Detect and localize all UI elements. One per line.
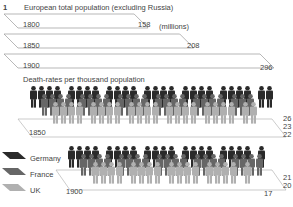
label-1850: 1850 xyxy=(23,41,40,50)
population-title: European total population (excluding Rus… xyxy=(24,3,173,12)
population-band xyxy=(4,54,274,68)
person-icon xyxy=(258,86,265,108)
person-icon xyxy=(30,86,37,108)
label-1900: 1900 xyxy=(23,61,40,70)
uk-1850: 22 xyxy=(283,130,291,139)
death-label-1900: 1900 xyxy=(66,187,83,196)
person-icon xyxy=(68,146,75,168)
value-1900: 296 xyxy=(260,63,273,72)
value-1800: 158 xyxy=(138,20,151,29)
legend-uk: UK xyxy=(30,186,40,195)
value-1850: 208 xyxy=(187,41,200,50)
legend-swatch xyxy=(2,152,26,159)
legend-swatch xyxy=(2,168,26,175)
death-title: Death-rates per thousand population xyxy=(23,75,145,84)
legend-swatch xyxy=(2,184,26,191)
france-1900: 20 xyxy=(283,181,291,190)
legend-germany: Germany xyxy=(30,154,61,163)
uk-1900: 17 xyxy=(264,189,272,198)
population-unit: (millions) xyxy=(159,22,189,31)
figure-number: 1 xyxy=(3,3,7,12)
death-label-1850: 1850 xyxy=(29,128,46,137)
legend-france: France xyxy=(30,170,53,179)
person-icon xyxy=(266,86,273,108)
label-1800: 1800 xyxy=(23,20,40,29)
